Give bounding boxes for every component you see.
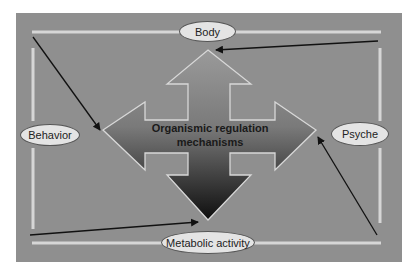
node-metabolic-activity: Metabolic activity <box>161 231 255 254</box>
center-label: Organismic regulation mechanisms <box>140 121 280 149</box>
center-label-line1: Organismic regulation <box>140 121 280 135</box>
center-label-line2: mechanisms <box>140 135 280 149</box>
node-body: Body <box>179 21 236 42</box>
node-behavior: Behavior <box>20 124 80 146</box>
node-psyche: Psyche <box>331 122 389 146</box>
